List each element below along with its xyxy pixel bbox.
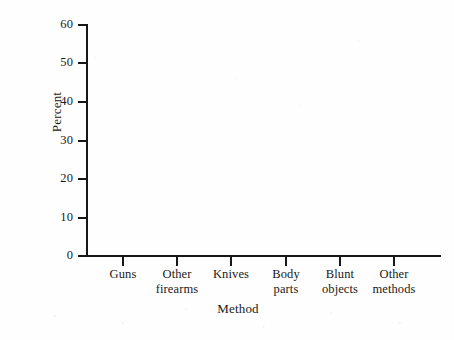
x-axis-tick-label-line1: Knives	[213, 267, 249, 281]
x-axis-tick-label-line1: Other	[163, 267, 192, 281]
y-axis-tick	[78, 178, 87, 180]
x-axis-tick-label: Other methods	[356, 267, 432, 296]
x-axis-tick-label-line1: Blunt	[326, 267, 354, 281]
y-axis-tick	[78, 62, 87, 64]
x-axis-line	[86, 255, 441, 257]
x-axis-tick	[122, 257, 124, 266]
y-axis-tick-label: 20	[29, 172, 73, 184]
y-axis-tick-label: 50	[29, 56, 73, 68]
x-axis-tick-label-line2: firearms	[139, 282, 215, 297]
y-axis-tick	[78, 140, 87, 142]
y-axis-tick	[78, 24, 87, 26]
x-axis-tick-label-line1: Body	[272, 267, 300, 281]
x-axis-tick-label-line1: Guns	[110, 267, 137, 281]
x-axis-tick	[285, 257, 287, 266]
y-axis-title: Percent	[49, 72, 65, 152]
x-axis-tick-label-line1: Other	[380, 267, 409, 281]
x-axis-tick-label-line2: methods	[356, 282, 432, 297]
y-axis-tick-label: 60	[29, 18, 73, 30]
y-axis-tick	[78, 217, 87, 219]
x-axis-tick	[339, 257, 341, 266]
x-axis-title: Method	[0, 301, 454, 317]
y-axis-tick-label: 10	[29, 211, 73, 223]
x-axis-tick	[230, 257, 232, 266]
chart-figure: 60 50 40 30 20 10 0 Guns Other firearms …	[0, 0, 454, 340]
y-axis-tick	[78, 255, 87, 257]
x-axis-tick	[393, 257, 395, 266]
y-axis-tick	[78, 101, 87, 103]
y-axis-tick-label: 0	[29, 249, 73, 261]
x-axis-tick	[176, 257, 178, 266]
plot-area	[88, 24, 441, 255]
